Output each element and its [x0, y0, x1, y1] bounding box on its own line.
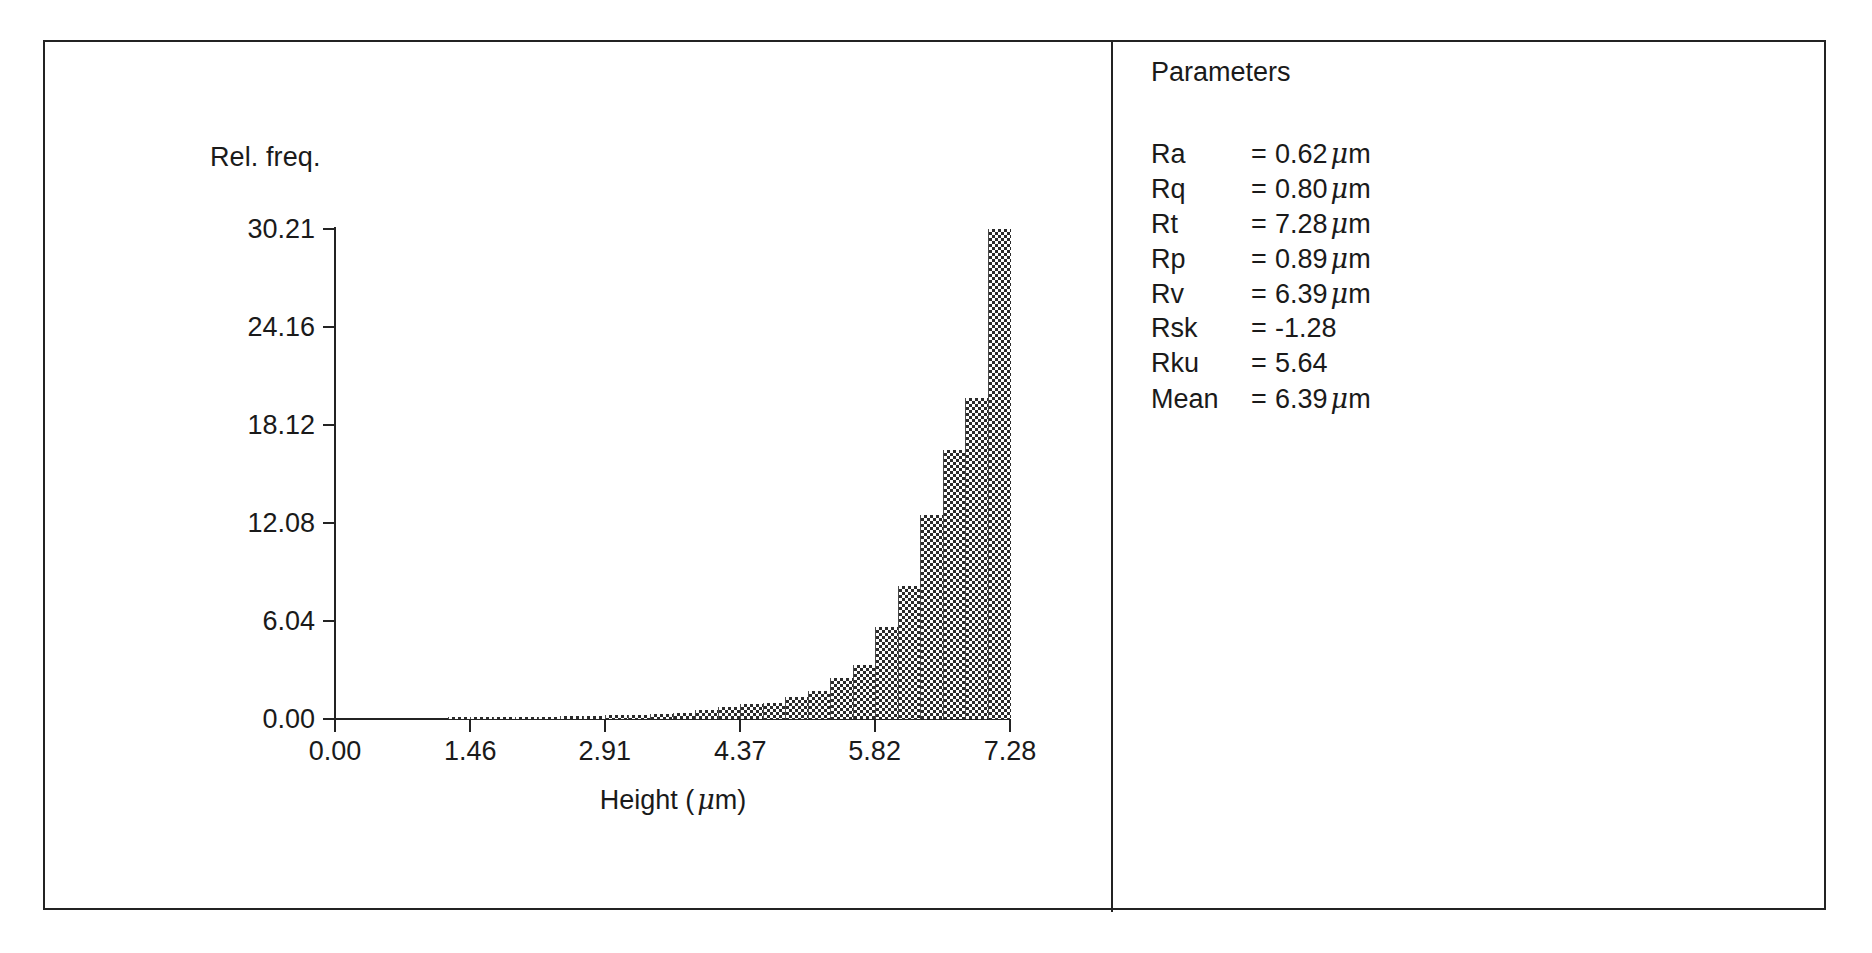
- x-axis-tick-label: 2.91: [579, 736, 632, 767]
- histogram-bar: [875, 627, 898, 719]
- histogram-bar: [515, 717, 538, 719]
- histogram-bar: [740, 704, 763, 719]
- y-axis-tick: [323, 620, 334, 622]
- mu-symbol: μ: [694, 784, 715, 815]
- parameter-row: Mean=6.39μm: [1151, 383, 1371, 418]
- parameter-name: Rv: [1151, 279, 1251, 310]
- y-axis-tick: [323, 228, 334, 230]
- x-axis-tick: [874, 720, 876, 732]
- parameter-equals: =: [1251, 384, 1275, 415]
- histogram-bar: [920, 515, 943, 719]
- histogram-bar: [988, 229, 1011, 719]
- histogram-bar: [763, 703, 786, 719]
- histogram-bar: [583, 716, 606, 719]
- histogram-bar: [898, 586, 921, 719]
- histogram-bar: [718, 707, 741, 719]
- x-axis-title: Height (μm): [600, 784, 747, 816]
- y-axis-tick-label: 0.00: [195, 704, 315, 735]
- histogram-bar: [560, 716, 583, 719]
- mu-symbol: μ: [1328, 383, 1349, 414]
- parameters-list: Ra=0.62μmRq=0.80μmRt=7.28μmRp=0.89μmRv=6…: [1151, 138, 1371, 418]
- parameter-name: Rq: [1151, 174, 1251, 205]
- histogram-bar: [493, 717, 516, 719]
- parameter-value: 6.39: [1275, 384, 1328, 415]
- y-axis-tick: [323, 326, 334, 328]
- histogram-bar: [470, 717, 493, 719]
- histogram-bar: [605, 715, 628, 719]
- histogram-bar: [448, 717, 471, 719]
- y-axis-tick-label: 6.04: [195, 606, 315, 637]
- parameter-equals: =: [1251, 244, 1275, 275]
- parameter-equals: =: [1251, 139, 1275, 170]
- parameter-name: Ra: [1151, 139, 1251, 170]
- parameter-name: Rt: [1151, 209, 1251, 240]
- parameter-value: 0.89: [1275, 244, 1328, 275]
- parameter-value: 5.64: [1275, 348, 1328, 379]
- parameter-row: Rv=6.39μm: [1151, 278, 1371, 313]
- histogram-bar: [785, 697, 808, 719]
- parameter-unit: m: [1348, 244, 1371, 275]
- parameters-title: Parameters: [1151, 57, 1291, 88]
- histogram-bar: [830, 678, 853, 719]
- parameter-name: Rp: [1151, 244, 1251, 275]
- parameter-row: Rku=5.64: [1151, 348, 1371, 383]
- parameter-equals: =: [1251, 313, 1275, 344]
- parameter-name: Rku: [1151, 348, 1251, 379]
- parameter-value: 0.80: [1275, 174, 1328, 205]
- mu-symbol: μ: [1328, 173, 1349, 204]
- parameter-row: Ra=0.62μm: [1151, 138, 1371, 173]
- mu-symbol: μ: [1328, 278, 1349, 309]
- parameters-panel: Parameters Ra=0.62μmRq=0.80μmRt=7.28μmRp…: [1113, 42, 1826, 908]
- parameter-row: Rq=0.80μm: [1151, 173, 1371, 208]
- x-axis-tick-label: 7.28: [984, 736, 1037, 767]
- parameter-unit: m: [1348, 384, 1371, 415]
- y-axis-tick: [323, 718, 334, 720]
- parameter-value: 0.62: [1275, 139, 1328, 170]
- y-axis-tick-label: 18.12: [195, 410, 315, 441]
- x-axis-tick-label: 4.37: [714, 736, 767, 767]
- parameter-name: Rsk: [1151, 313, 1251, 344]
- x-axis-tick: [334, 720, 336, 732]
- y-axis-tick-label: 12.08: [195, 508, 315, 539]
- histogram-bar: [673, 713, 696, 719]
- histogram-panel: Rel. freq. 0.006.0412.0818.1224.1630.21 …: [45, 42, 1109, 908]
- parameter-equals: =: [1251, 348, 1275, 379]
- histogram-bar: [538, 717, 561, 719]
- histogram-bar: [943, 450, 966, 719]
- x-axis-tick: [1009, 720, 1011, 732]
- parameter-row: Rp=0.89μm: [1151, 243, 1371, 278]
- mu-symbol: μ: [1328, 208, 1349, 239]
- x-axis-title-unit: m): [715, 785, 746, 815]
- parameter-equals: =: [1251, 209, 1275, 240]
- x-axis-tick: [739, 720, 741, 732]
- x-axis-tick-label: 0.00: [309, 736, 362, 767]
- histogram-bar: [965, 398, 988, 719]
- parameter-value: -1.28: [1275, 313, 1337, 344]
- parameter-unit: m: [1348, 209, 1371, 240]
- histogram-bar: [808, 691, 831, 719]
- y-axis-title: Rel. freq.: [210, 142, 321, 173]
- histogram-bar: [695, 710, 718, 719]
- y-axis-tick-label: 24.16: [195, 312, 315, 343]
- x-axis-tick: [469, 720, 471, 732]
- parameter-name: Mean: [1151, 384, 1251, 415]
- parameter-value: 6.39: [1275, 279, 1328, 310]
- x-axis-tick-label: 5.82: [848, 736, 901, 767]
- y-axis-tick-label: 30.21: [195, 214, 315, 245]
- parameter-row: Rt=7.28μm: [1151, 208, 1371, 243]
- x-axis-tick: [604, 720, 606, 732]
- parameter-unit: m: [1348, 279, 1371, 310]
- parameter-unit: m: [1348, 174, 1371, 205]
- y-axis-tick: [323, 424, 334, 426]
- mu-symbol: μ: [1328, 243, 1349, 274]
- histogram-bar: [853, 665, 876, 719]
- x-axis-title-text: Height (: [600, 785, 695, 815]
- x-axis-tick-label: 1.46: [444, 736, 497, 767]
- parameter-unit: m: [1348, 139, 1371, 170]
- parameter-equals: =: [1251, 174, 1275, 205]
- screenshot-root: Rel. freq. 0.006.0412.0818.1224.1630.21 …: [0, 0, 1872, 953]
- histogram-bar: [650, 714, 673, 719]
- parameter-row: Rsk=-1.28: [1151, 313, 1371, 348]
- parameter-equals: =: [1251, 279, 1275, 310]
- mu-symbol: μ: [1328, 138, 1349, 169]
